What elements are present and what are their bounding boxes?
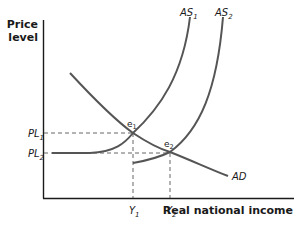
pl1-label: PL1 <box>28 128 44 142</box>
as1-label: AS1 <box>179 7 198 21</box>
y-axis-title-line2: level <box>8 31 38 44</box>
ad-label: AD <box>231 171 247 182</box>
x-axis-title: Real national income <box>163 204 293 217</box>
pl2-label: PL2 <box>28 148 45 162</box>
as-ad-diagram: Price level Real national income AS1 AS2… <box>0 0 307 226</box>
y1-label: Y1 <box>129 205 140 219</box>
y-axis-title-line1: Price <box>7 18 38 31</box>
e2-label: e2 <box>164 139 174 151</box>
